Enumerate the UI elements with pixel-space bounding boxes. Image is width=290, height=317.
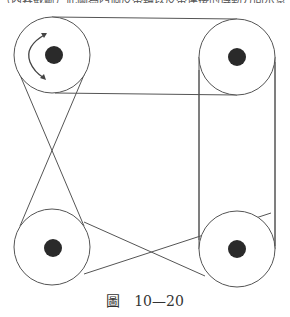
belt-top-upper (52, 17, 237, 19)
caption-number: 10—20 (134, 293, 184, 309)
belt-top-lower (55, 93, 237, 95)
hub-top-right (228, 48, 246, 66)
hub-bottom-left (44, 239, 62, 257)
figure-caption: 圖10—20 (0, 290, 290, 310)
caption-label: 圖 (106, 293, 120, 309)
pulley-belt-diagram (0, 0, 290, 290)
hub-top-left (45, 46, 63, 64)
hub-bottom-right (228, 240, 246, 258)
